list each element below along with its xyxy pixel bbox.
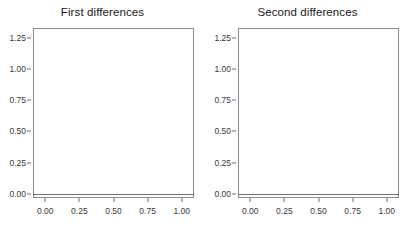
y-tick-mark <box>232 162 236 163</box>
x-tick-label: 0.50 <box>310 206 327 216</box>
x-tick-mark <box>147 198 148 202</box>
x-axis: 0.000.250.500.751.00 <box>238 198 399 222</box>
x-tick-label: 1.00 <box>173 206 190 216</box>
y-tick-mark <box>232 193 236 194</box>
x-tick-label: 0.50 <box>105 206 122 216</box>
x-tick-label: 0.75 <box>139 206 156 216</box>
x-tick-label: 0.00 <box>242 206 259 216</box>
y-tick-label: 0.50 <box>9 126 26 136</box>
y-tick-mark <box>27 131 31 132</box>
y-tick-mark <box>27 162 31 163</box>
x-axis: 0.000.250.500.751.00 <box>33 198 194 222</box>
y-tick-label: 1.00 <box>9 64 26 74</box>
y-tick-label: 0.75 <box>9 95 26 105</box>
y-axis: 0.000.250.500.751.001.25 <box>0 28 31 198</box>
x-tick-label: 0.00 <box>37 206 54 216</box>
y-tick-label: 0.25 <box>9 158 26 168</box>
x-tick-mark <box>352 198 353 202</box>
plot-area <box>33 28 194 198</box>
x-tick-label: 0.75 <box>344 206 361 216</box>
panel-title: Second differences <box>205 6 410 18</box>
y-tick-label: 0.00 <box>9 189 26 199</box>
x-tick-mark <box>45 198 46 202</box>
x-tick-label: 0.25 <box>276 206 293 216</box>
y-tick-mark <box>27 69 31 70</box>
x-tick-mark <box>318 198 319 202</box>
x-tick-mark <box>386 198 387 202</box>
figure-container: First differences0.000.250.500.751.001.2… <box>0 0 410 236</box>
x-tick-mark <box>79 198 80 202</box>
y-tick-mark <box>27 193 31 194</box>
y-tick-mark <box>27 100 31 101</box>
y-tick-mark <box>232 131 236 132</box>
y-tick-label: 1.25 <box>214 33 231 43</box>
y-tick-label: 1.00 <box>214 64 231 74</box>
y-tick-label: 1.25 <box>9 33 26 43</box>
x-tick-mark <box>113 198 114 202</box>
zero-axis-line <box>238 194 399 195</box>
y-tick-mark <box>232 100 236 101</box>
y-tick-label: 0.25 <box>214 158 231 168</box>
x-tick-mark <box>181 198 182 202</box>
y-tick-mark <box>27 37 31 38</box>
y-tick-label: 0.75 <box>214 95 231 105</box>
plot-area <box>238 28 399 198</box>
x-tick-mark <box>250 198 251 202</box>
y-tick-label: 0.50 <box>214 126 231 136</box>
y-axis: 0.000.250.500.751.001.25 <box>205 28 236 198</box>
panel-first-differences: First differences0.000.250.500.751.001.2… <box>0 0 205 236</box>
y-tick-label: 0.00 <box>214 189 231 199</box>
x-tick-label: 1.00 <box>378 206 395 216</box>
panel-title: First differences <box>0 6 205 18</box>
x-tick-mark <box>284 198 285 202</box>
panel-border <box>238 28 399 198</box>
panel-second-differences: Second differences0.000.250.500.751.001.… <box>205 0 410 236</box>
x-tick-label: 0.25 <box>71 206 88 216</box>
y-tick-mark <box>232 37 236 38</box>
zero-axis-line <box>33 194 194 195</box>
y-tick-mark <box>232 69 236 70</box>
panel-border <box>33 28 194 198</box>
